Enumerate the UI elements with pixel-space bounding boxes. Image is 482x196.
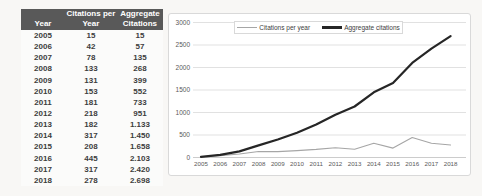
table-row: 20173172.420 xyxy=(21,164,163,175)
table-row: 20164452.103 xyxy=(21,153,163,164)
table-cell: 2006 xyxy=(21,42,65,51)
table-cell: 2015 xyxy=(21,142,65,151)
table-cell: 445 xyxy=(65,154,117,163)
table-cell: 399 xyxy=(117,76,163,85)
table-header-label: Citations xyxy=(117,19,163,29)
table-cell: 2014 xyxy=(21,131,65,140)
table-row: 2009131399 xyxy=(21,75,163,86)
table-cell: 131 xyxy=(65,76,117,85)
table-cell: 208 xyxy=(65,142,117,151)
x-axis-tick-label: 2006 xyxy=(213,160,227,167)
table-cell: 15 xyxy=(117,31,163,40)
table-cell: 133 xyxy=(65,64,117,73)
table-cell: 2.103 xyxy=(117,154,163,163)
legend-item-citations-per-year: Citations per year xyxy=(237,24,310,31)
thick-line-swatch-icon xyxy=(322,26,342,29)
x-axis-tick-label: 2005 xyxy=(194,160,208,167)
y-axis-tick-label: 2000 xyxy=(176,64,191,71)
table-cell: 42 xyxy=(65,42,117,51)
x-axis-tick-label: 2012 xyxy=(329,160,343,167)
table-cell: 218 xyxy=(65,109,117,118)
table-cell: 2008 xyxy=(21,64,65,73)
table-row: 2012218951 xyxy=(21,108,163,119)
series-line-aggregate-citations xyxy=(201,36,451,157)
table-header-label: Aggregate xyxy=(117,9,163,19)
table-cell: 2016 xyxy=(21,154,65,163)
table-cell: 182 xyxy=(65,120,117,129)
x-axis-tick-label: 2017 xyxy=(425,160,439,167)
chart-legend: Citations per year Aggregate citations xyxy=(234,21,403,34)
table-cell: 317 xyxy=(65,165,117,174)
table-row: 20131821.133 xyxy=(21,119,163,130)
table-cell: 2.698 xyxy=(117,176,163,185)
table-cell: 15 xyxy=(65,31,117,40)
table-cell: 2005 xyxy=(21,31,65,40)
citations-line-chart: Citations per year Aggregate citations 0… xyxy=(168,13,471,176)
table-row: 20182782.698 xyxy=(21,175,163,186)
table-cell: 1.658 xyxy=(117,142,163,151)
table-cell: 181 xyxy=(65,98,117,107)
x-axis-tick-label: 2007 xyxy=(233,160,247,167)
table-body: 2005151520064257200778135200813326820091… xyxy=(21,30,163,186)
table-cell: 278 xyxy=(65,176,117,185)
table-cell: 57 xyxy=(117,42,163,51)
table-cell: 78 xyxy=(65,53,117,62)
table-cell: 2018 xyxy=(21,176,65,185)
x-axis-tick-label: 2014 xyxy=(367,160,381,167)
legend-label: Citations per year xyxy=(259,24,310,31)
table-cell: 733 xyxy=(117,98,163,107)
table-header-year: Year xyxy=(21,9,65,30)
table-cell: 2013 xyxy=(21,120,65,129)
x-axis-tick-label: 2018 xyxy=(444,160,458,167)
table-row: 200778135 xyxy=(21,52,163,63)
citations-table: Year Citations per Year Aggregate Citati… xyxy=(21,9,163,186)
table-cell: 2007 xyxy=(21,53,65,62)
x-axis-tick-label: 2015 xyxy=(386,160,400,167)
table-cell: 2.420 xyxy=(117,165,163,174)
table-cell: 1.450 xyxy=(117,131,163,140)
table-cell: 2011 xyxy=(21,98,65,107)
y-axis-tick-label: 3000 xyxy=(176,19,191,26)
table-cell: 951 xyxy=(117,109,163,118)
x-axis-tick-label: 2009 xyxy=(271,160,285,167)
thin-line-swatch-icon xyxy=(237,27,257,28)
x-axis-tick-label: 2010 xyxy=(290,160,304,167)
table-header-label: Citations per xyxy=(65,9,117,19)
table-row: 20064257 xyxy=(21,41,163,52)
y-axis-tick-label: 1000 xyxy=(176,109,191,116)
chart-plot-area: 0500100015002000250030002005200620072008… xyxy=(169,14,470,175)
x-axis-tick-label: 2011 xyxy=(310,160,324,167)
y-axis-tick-label: 1500 xyxy=(176,86,191,93)
table-cell: 552 xyxy=(117,87,163,96)
legend-item-aggregate-citations: Aggregate citations xyxy=(322,24,400,31)
table-cell: 317 xyxy=(65,131,117,140)
table-cell: 2017 xyxy=(21,165,65,174)
y-axis-tick-label: 0 xyxy=(186,154,190,161)
table-row: 20143171.450 xyxy=(21,130,163,141)
table-row: 2010153552 xyxy=(21,86,163,97)
table-header-label: Year xyxy=(21,19,65,29)
table-header-label: Year xyxy=(65,19,117,29)
table-cell: 135 xyxy=(117,53,163,62)
table-cell: 153 xyxy=(65,87,117,96)
x-axis-tick-label: 2013 xyxy=(348,160,362,167)
table-cell: 268 xyxy=(117,64,163,73)
legend-label: Aggregate citations xyxy=(344,24,400,31)
table-cell: 2012 xyxy=(21,109,65,118)
table-row: 20051515 xyxy=(21,30,163,41)
table-row: 20152081.658 xyxy=(21,141,163,152)
y-axis-tick-label: 2500 xyxy=(176,41,191,48)
x-axis-tick-label: 2008 xyxy=(252,160,266,167)
table-row: 2011181733 xyxy=(21,97,163,108)
table-header-citations-per-year: Citations per Year xyxy=(65,9,117,30)
table-cell: 1.133 xyxy=(117,120,163,129)
table-cell: 2009 xyxy=(21,76,65,85)
x-axis-tick-label: 2016 xyxy=(405,160,419,167)
series-line-citations-per-year xyxy=(201,138,451,157)
table-header-row: Year Citations per Year Aggregate Citati… xyxy=(21,9,163,30)
table-row: 2008133268 xyxy=(21,63,163,74)
table-header-aggregate-citations: Aggregate Citations xyxy=(117,9,163,30)
y-axis-tick-label: 500 xyxy=(179,131,190,138)
table-cell: 2010 xyxy=(21,87,65,96)
